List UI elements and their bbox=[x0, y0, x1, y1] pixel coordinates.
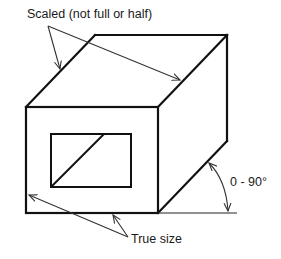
window-diagonal bbox=[51, 134, 104, 187]
true-size-leaders bbox=[29, 195, 128, 237]
scaled-label: Scaled (not full or half) bbox=[27, 7, 152, 21]
receding-edge-bottom-right bbox=[158, 141, 227, 213]
oblique-box-diagram: Scaled (not full or half) True size 0 - … bbox=[0, 0, 281, 259]
scaled-arrow-left bbox=[48, 26, 60, 69]
front-face bbox=[26, 107, 158, 213]
receding-edge-top-left bbox=[26, 35, 95, 107]
angle-label: 0 - 90° bbox=[230, 175, 267, 189]
receding-edge-top-right bbox=[158, 35, 227, 107]
window-rect bbox=[51, 134, 131, 187]
front-window bbox=[51, 134, 131, 187]
angle-arc bbox=[209, 163, 228, 211]
true-size-label: True size bbox=[131, 232, 182, 246]
